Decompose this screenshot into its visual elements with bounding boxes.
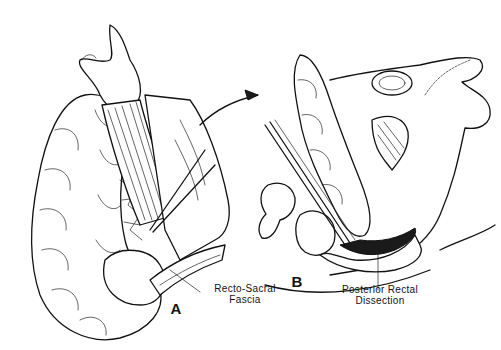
callout-line: Recto-Sacral: [200, 283, 290, 294]
panel-letter-b: B: [287, 276, 307, 287]
callout-posterior-rectal-dissection: Posterior Rectal Dissection: [330, 284, 430, 306]
panel-letter-a: A: [166, 303, 186, 314]
callout-line: Posterior Rectal: [330, 284, 430, 295]
surgical-illustration: Recto-Sacral Fascia A B Posterior Rectal…: [0, 0, 501, 350]
callout-line: Fascia: [200, 294, 290, 305]
callout-recto-sacral-fascia: Recto-Sacral Fascia: [200, 283, 290, 305]
callout-line: Dissection: [330, 295, 430, 306]
